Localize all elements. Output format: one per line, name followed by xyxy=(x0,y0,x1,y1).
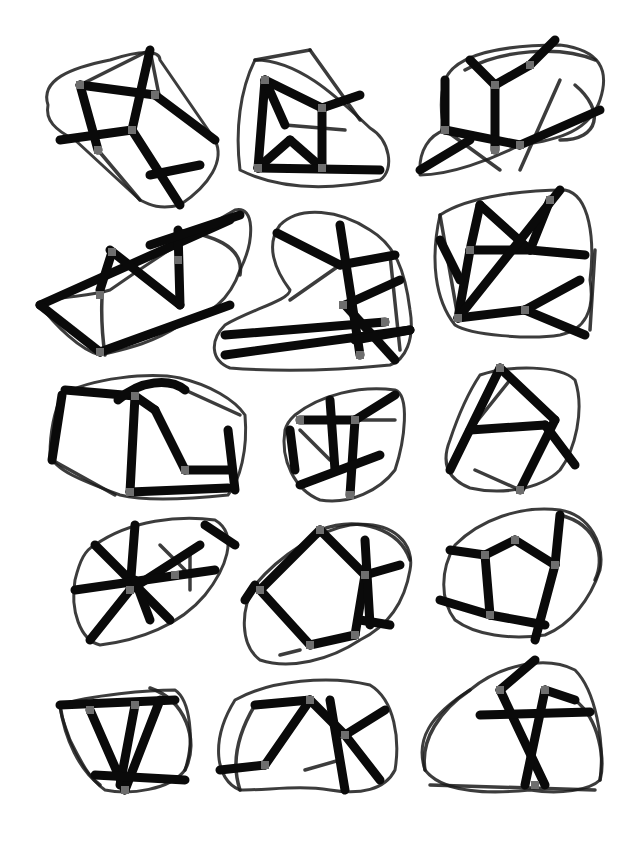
joint-marker xyxy=(306,641,314,649)
joint-marker xyxy=(486,611,494,619)
joint-marker xyxy=(96,291,104,299)
joint-marker xyxy=(511,536,519,544)
ribbon-band xyxy=(130,488,228,492)
joint-marker xyxy=(128,126,136,134)
joint-marker xyxy=(108,248,116,256)
joint-marker xyxy=(121,786,129,794)
joint-marker xyxy=(346,491,354,499)
joint-marker xyxy=(516,141,524,149)
joint-marker xyxy=(181,466,189,474)
joint-marker xyxy=(94,146,102,154)
ribbon-band xyxy=(330,400,335,470)
joint-marker xyxy=(296,416,304,424)
joint-marker xyxy=(131,701,139,709)
joint-marker xyxy=(491,81,499,89)
joint-marker xyxy=(496,686,504,694)
joint-marker xyxy=(174,256,182,264)
joint-marker xyxy=(318,104,326,112)
joint-marker xyxy=(351,631,359,639)
ribbon-band xyxy=(360,620,390,625)
ribbon-wireframe-artwork xyxy=(0,0,642,844)
joint-marker xyxy=(466,246,474,254)
joint-marker xyxy=(496,364,504,372)
joint-marker xyxy=(86,706,94,714)
joint-marker xyxy=(339,301,347,309)
ribbon-band xyxy=(470,425,545,430)
ribbon-band xyxy=(530,250,585,255)
joint-marker xyxy=(521,306,529,314)
joint-marker xyxy=(306,696,314,704)
ribbon-band xyxy=(130,396,135,492)
ribbon-band xyxy=(178,230,180,305)
joint-marker xyxy=(351,416,359,424)
joint-marker xyxy=(126,488,134,496)
joint-marker xyxy=(491,146,499,154)
joint-marker xyxy=(361,571,369,579)
joint-marker xyxy=(341,731,349,739)
ribbon-band xyxy=(485,555,490,615)
joint-marker xyxy=(261,761,269,769)
joint-marker xyxy=(261,76,269,84)
ribbon-band xyxy=(95,775,185,780)
joint-marker xyxy=(441,126,449,134)
joint-marker xyxy=(126,586,134,594)
ribbon-band xyxy=(220,765,265,770)
joint-marker xyxy=(316,526,324,534)
joint-marker xyxy=(318,164,326,172)
ribbon-band xyxy=(555,515,560,565)
joint-marker xyxy=(546,196,554,204)
joint-marker xyxy=(454,314,462,322)
joint-marker xyxy=(131,392,139,400)
joint-marker xyxy=(76,81,84,89)
joint-marker xyxy=(171,571,179,579)
joint-marker xyxy=(526,61,534,69)
joint-marker xyxy=(381,318,389,326)
ribbon-band xyxy=(365,540,370,625)
ribbon-band xyxy=(450,550,485,555)
ribbon-band xyxy=(290,430,295,470)
joint-marker xyxy=(541,686,549,694)
joint-marker xyxy=(151,91,159,99)
joint-marker xyxy=(531,781,539,789)
joint-marker xyxy=(254,164,262,172)
joint-marker xyxy=(481,551,489,559)
ribbon-band xyxy=(350,420,355,495)
joint-marker xyxy=(356,351,364,359)
joint-marker xyxy=(256,586,264,594)
ribbon-band xyxy=(480,712,590,715)
joint-marker xyxy=(96,348,104,356)
joint-marker xyxy=(551,561,559,569)
joint-marker xyxy=(516,486,524,494)
